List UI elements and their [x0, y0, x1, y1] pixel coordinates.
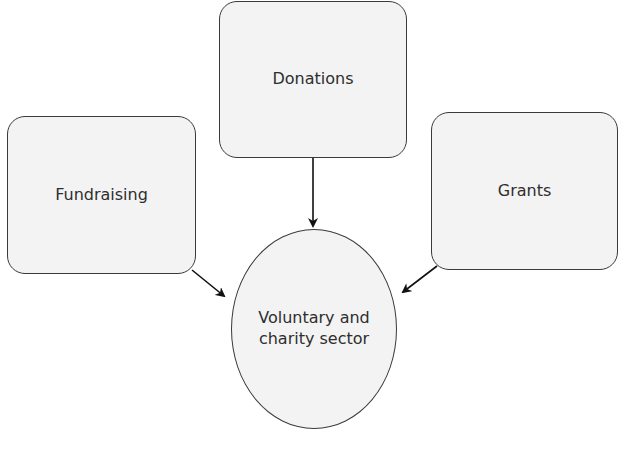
- fundraising-label: Fundraising: [55, 185, 148, 206]
- arrow-grants-to-sector: [403, 266, 437, 292]
- donations-label: Donations: [272, 69, 353, 90]
- donations-node: Donations: [219, 1, 407, 158]
- arrow-fundraising-to-sector: [192, 270, 224, 296]
- sector-label-line2: charity sector: [259, 329, 369, 350]
- voluntary-charity-sector-node: Voluntary and charity sector: [231, 229, 397, 429]
- grants-node: Grants: [431, 112, 618, 270]
- grants-label: Grants: [498, 181, 552, 202]
- fundraising-node: Fundraising: [7, 116, 196, 274]
- sector-label-line1: Voluntary and: [258, 308, 370, 329]
